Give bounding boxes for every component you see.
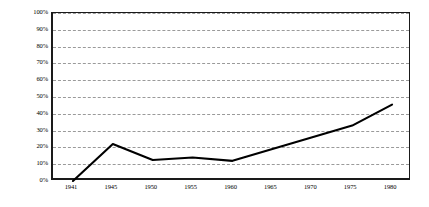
y-tick-label: 30% xyxy=(2,126,48,133)
x-tick-label: 1950 xyxy=(144,184,157,191)
y-tick-label: 50% xyxy=(2,93,48,100)
x-tick-label: 1965 xyxy=(264,184,277,191)
y-tick-label: 100% xyxy=(2,9,48,16)
y-tick-label: 60% xyxy=(2,76,48,83)
x-tick-label: 1970 xyxy=(304,184,317,191)
x-tick-label: 1975 xyxy=(344,184,357,191)
y-tick-label: 70% xyxy=(2,59,48,66)
line-chart: 0%10%20%30%40%50%60%70%80%90%100% 194119… xyxy=(0,0,429,207)
plot-area xyxy=(51,12,410,180)
y-tick-label: 90% xyxy=(2,26,48,33)
y-axis: 0%10%20%30%40%50%60%70%80%90%100% xyxy=(0,12,48,180)
x-axis: 194119451950195519601965197019751980 xyxy=(51,184,410,198)
y-tick-label: 80% xyxy=(2,42,48,49)
y-tick-label: 20% xyxy=(2,143,48,150)
x-tick-label: 1980 xyxy=(384,184,397,191)
series-polyline xyxy=(73,105,392,181)
x-tick-label: 1960 xyxy=(224,184,237,191)
y-tick-label: 0% xyxy=(2,177,48,184)
y-tick-label: 40% xyxy=(2,110,48,117)
x-tick-label: 1955 xyxy=(184,184,197,191)
y-tick-label: 10% xyxy=(2,160,48,167)
x-tick-label: 1941 xyxy=(65,184,78,191)
series-line xyxy=(53,13,412,181)
x-tick-label: 1945 xyxy=(105,184,118,191)
